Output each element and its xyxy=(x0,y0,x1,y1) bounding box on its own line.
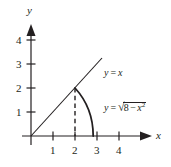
line-y-equals-x xyxy=(31,58,102,136)
annotation-line-equals: = xyxy=(110,67,116,78)
y-tick-label-1: 1 xyxy=(16,107,22,118)
x-tick-label-3: 3 xyxy=(94,145,100,156)
annotation-curve-y: y xyxy=(104,102,108,113)
radicand-minus: − xyxy=(130,102,136,113)
y-axis xyxy=(27,24,36,145)
y-tick-label-3: 3 xyxy=(16,59,22,70)
annotation-curve-equation: y=√8−x2 xyxy=(104,101,146,113)
math-figure: y x 1 2 3 4 1 2 3 4 y=x y=√8−x2 xyxy=(0,0,171,167)
x-tick-label-1: 1 xyxy=(50,145,56,156)
y-tick-label-4: 4 xyxy=(16,35,22,46)
radicand: 8−x2 xyxy=(123,102,147,113)
x-axis xyxy=(22,132,152,141)
plot-canvas xyxy=(0,0,171,167)
annotation-curve-equals: = xyxy=(110,102,116,113)
x-tick-label-2: 2 xyxy=(72,145,78,156)
annotation-line-x: x xyxy=(118,67,122,78)
annotation-line-y: y xyxy=(104,67,108,78)
x-axis-label: x xyxy=(156,130,161,141)
annotation-line-equation: y=x xyxy=(104,68,123,78)
y-axis-label: y xyxy=(27,5,32,16)
radicand-exponent: 2 xyxy=(142,100,146,108)
x-tick-label-4: 4 xyxy=(116,145,122,156)
y-tick-label-2: 2 xyxy=(16,83,22,94)
curve-circle-arc xyxy=(75,88,93,136)
sqrt-expression: √8−x2 xyxy=(118,101,146,113)
radicand-constant: 8 xyxy=(124,102,129,113)
